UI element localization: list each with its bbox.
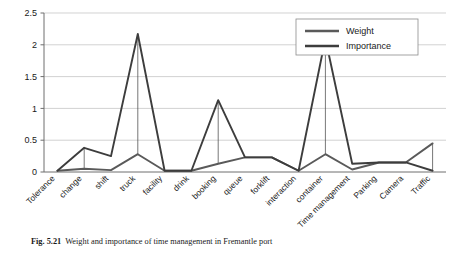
- legend-label-importance: Importance: [346, 41, 391, 51]
- figure-caption: Fig. 5.21Weight and importance of time m…: [31, 237, 431, 246]
- y-tick-marks-group: [41, 13, 45, 172]
- y-axis-tick-label: 2: [32, 40, 37, 50]
- figure-container: 00.511.522.5 Tolerancechangeshifttruckfa…: [0, 0, 452, 257]
- y-axis-tick-label: 0: [32, 167, 37, 177]
- x-axis-category-label: shift: [92, 173, 110, 191]
- x-axis-category-label: booking: [190, 173, 218, 201]
- y-axis-tick-labels-group: 00.511.522.5: [24, 8, 37, 177]
- y-axis-tick-label: 1: [32, 104, 37, 114]
- y-axis-tick-label: 1.5: [24, 72, 37, 82]
- y-axis-tick-label: 0.5: [24, 135, 37, 145]
- x-axis-category-label: facility: [140, 173, 164, 197]
- chart-plot-area: 00.511.522.5 Tolerancechangeshifttruckfa…: [0, 0, 452, 232]
- y-axis-tick-label: 2.5: [24, 8, 37, 18]
- x-axis-category-label: Camera: [377, 173, 405, 201]
- x-axis-category-label: forklift: [248, 173, 271, 196]
- line-chart-svg: 00.511.522.5 Tolerancechangeshifttruckfa…: [0, 0, 452, 232]
- x-axis-category-label: Parking: [351, 173, 378, 200]
- chart-legend: Weight Importance: [296, 19, 418, 55]
- legend-label-weight: Weight: [346, 26, 374, 36]
- figure-caption-text: Weight and importance of time management…: [65, 237, 272, 246]
- x-axis-category-labels-group: Tolerancechangeshifttruckfacilitydrinkbo…: [24, 173, 432, 230]
- x-axis-category-label: drink: [171, 173, 191, 193]
- x-axis-category-label: change: [57, 173, 84, 200]
- x-axis-category-label: queue: [221, 173, 245, 197]
- x-axis-category-label: Traffic: [409, 173, 432, 196]
- x-axis-category-label: truck: [117, 173, 137, 193]
- x-axis-category-label: Tolerance: [24, 173, 57, 206]
- figure-number: Fig. 5.21: [31, 237, 61, 246]
